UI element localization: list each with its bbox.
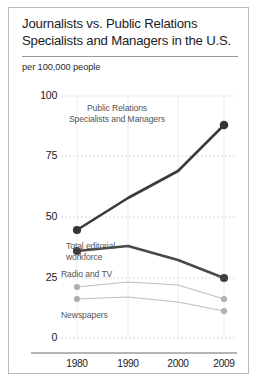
series-line-radio-and-tv bbox=[77, 282, 224, 299]
series-label-editorial-line2: workforce bbox=[66, 252, 102, 262]
series-marker-pr-2009 bbox=[220, 121, 229, 130]
gridlines bbox=[61, 96, 237, 338]
y-tick-label-0: 0 bbox=[27, 331, 57, 343]
series-marker-editorial-2009 bbox=[220, 274, 228, 282]
series-label-pr-line2: Specialists and Managers bbox=[69, 114, 165, 124]
plot-area: 100 75 50 25 0 1980 1990 2000 2009 Publi… bbox=[9, 8, 250, 375]
y-tick-label-75: 75 bbox=[27, 149, 57, 161]
series-label-public-relations: Public Relations Specialists and Manager… bbox=[57, 103, 177, 124]
series-marker-radio-and-tv-1980 bbox=[74, 284, 80, 290]
x-tick-label-2009: 2009 bbox=[202, 358, 246, 369]
series-label-newspapers: Newspapers bbox=[61, 310, 131, 321]
series-label-total-editorial-workforce: Total editorial workforce bbox=[66, 241, 156, 262]
series-marker-newspapers-2009 bbox=[221, 308, 227, 314]
series-label-editorial-line1: Total editorial bbox=[66, 241, 115, 251]
series-line-public-relations bbox=[77, 125, 224, 230]
series-marker-newspapers-1980 bbox=[74, 296, 80, 302]
series-marker-pr-1980 bbox=[73, 226, 81, 234]
y-tick-label-25: 25 bbox=[27, 271, 57, 283]
y-tick-label-100: 100 bbox=[27, 89, 57, 101]
x-tick-label-1990: 1990 bbox=[106, 358, 150, 369]
x-tick-label-2000: 2000 bbox=[156, 358, 200, 369]
series-marker-radio-and-tv-2009 bbox=[221, 296, 227, 302]
series-label-radio-and-tv: Radio and TV bbox=[61, 269, 131, 280]
chart-figure: Journalists vs. Public Relations Special… bbox=[8, 7, 249, 374]
x-tick-label-1980: 1980 bbox=[55, 358, 99, 369]
series-line-newspapers bbox=[77, 297, 224, 311]
series-label-pr-line1: Public Relations bbox=[87, 103, 147, 113]
y-tick-label-50: 50 bbox=[27, 210, 57, 222]
